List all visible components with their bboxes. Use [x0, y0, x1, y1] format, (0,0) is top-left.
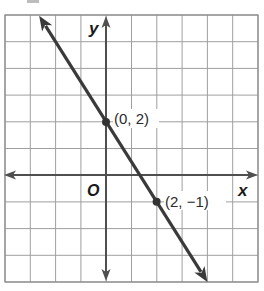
point-2-neg1 [153, 198, 161, 206]
grid [5, 15, 258, 282]
point1-label: (0, 2) [114, 110, 149, 127]
x-axis-label: x [237, 181, 249, 200]
point2-label: (2, −1) [165, 193, 209, 210]
point-0-2 [102, 118, 110, 126]
coordinate-graph: y x O (0, 2) (2, −1) [0, 0, 264, 291]
line-top-arrow-icon [39, 16, 52, 32]
line-bottom-arrow-icon [194, 266, 207, 282]
y-axis-label: y [88, 19, 100, 38]
origin-label: O [87, 182, 100, 199]
cropped-text-fragment [27, 0, 39, 3]
